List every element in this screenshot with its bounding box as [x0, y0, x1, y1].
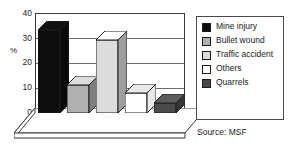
legend-item-label: Bullet wound: [216, 36, 265, 46]
y-tick-30: 30: [10, 34, 32, 43]
legend-item-others[interactable]: Others: [202, 64, 279, 74]
bar-shape: [38, 21, 69, 113]
bar-bullet-wound: [67, 76, 89, 113]
legend: Mine injuryBullet woundTraffic accidentO…: [196, 16, 284, 120]
legend-item-quarrels[interactable]: Quarrels: [202, 78, 279, 88]
y-axis-unit-label: %: [10, 46, 17, 55]
legend-swatch-icon: [202, 23, 211, 32]
legend-swatch-icon: [202, 79, 211, 88]
bar-chart: 40 30 20 10 0 % Mine injuryBullet woundT…: [0, 0, 290, 153]
bar-shape: [96, 31, 127, 113]
y-tick-10: 10: [10, 83, 32, 92]
legend-item-bullet-wound[interactable]: Bullet wound: [202, 36, 279, 46]
chart-floor: [14, 108, 206, 142]
bar-mine-injury: [38, 21, 60, 113]
legend-item-label: Others: [216, 64, 242, 74]
y-tick-20: 20: [10, 58, 32, 67]
bar-shape: [67, 76, 98, 113]
legend-swatch-icon: [202, 51, 211, 60]
legend-item-mine-injury[interactable]: Mine injury: [202, 22, 279, 32]
bar-shape: [154, 94, 185, 113]
bar-others: [125, 84, 147, 113]
legend-swatch-icon: [202, 37, 211, 46]
legend-swatch-icon: [202, 65, 211, 74]
source-note: Source: MSF: [197, 127, 247, 137]
bar-quarrels: [154, 94, 176, 113]
bar-traffic-accident: [96, 31, 118, 113]
legend-item-label: Mine injury: [216, 22, 257, 32]
legend-item-label: Traffic accident: [216, 50, 273, 60]
bar-series: [35, 13, 185, 113]
y-tick-40: 40: [10, 9, 32, 18]
legend-item-label: Quarrels: [216, 78, 249, 88]
bar-shape: [125, 84, 156, 113]
legend-item-traffic-accident[interactable]: Traffic accident: [202, 50, 279, 60]
